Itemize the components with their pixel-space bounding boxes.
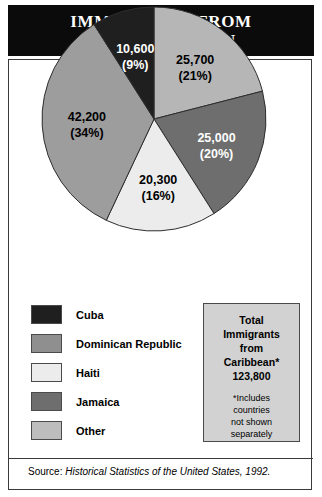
source-label: Source: bbox=[28, 466, 62, 477]
pie-label-value-jamaica: 25,000 bbox=[197, 131, 235, 145]
legend-label-cuba: Cuba bbox=[76, 309, 104, 321]
pie-label-value-cuba: 10,600 bbox=[116, 42, 154, 56]
pie-label-percent-other: (34%) bbox=[70, 126, 103, 140]
pie-label-percent-haiti: (16%) bbox=[142, 189, 175, 203]
legend-label-other: Other bbox=[76, 425, 105, 437]
total-box-line-4: Caribbean* bbox=[224, 355, 279, 369]
legend-item-dominican-republic[interactable]: Dominican Republic bbox=[31, 329, 196, 358]
total-box-line-2: Immigrants bbox=[223, 327, 280, 341]
legend-label-jamaica: Jamaica bbox=[76, 396, 119, 408]
legend-label-dominican-republic: Dominican Republic bbox=[76, 338, 182, 350]
total-box-note-line-1: *Includes bbox=[231, 392, 273, 404]
legend-swatch-jamaica bbox=[31, 392, 62, 411]
total-box-note: *Includes countries not shown separately bbox=[231, 392, 273, 440]
legend-item-jamaica[interactable]: Jamaica bbox=[31, 387, 196, 416]
pie-label-percent-dominican-republic: (21%) bbox=[179, 69, 212, 83]
pie-label-percent-cuba: (9%) bbox=[122, 58, 148, 72]
total-box-note-line-4: separately bbox=[231, 428, 273, 440]
pie-label-value-haiti: 20,300 bbox=[139, 173, 177, 187]
legend-swatch-other bbox=[31, 421, 62, 440]
legend-item-other[interactable]: Other bbox=[31, 416, 196, 445]
legend-swatch-dominican-republic bbox=[31, 334, 62, 353]
pie-label-value-other: 42,200 bbox=[68, 110, 106, 124]
pie-label-percent-jamaica: (20%) bbox=[200, 147, 233, 161]
total-box-note-line-3: not shown bbox=[231, 416, 273, 428]
legend-item-haiti[interactable]: Haiti bbox=[31, 358, 196, 387]
total-box-value: 123,800 bbox=[233, 369, 271, 383]
legend-label-haiti: Haiti bbox=[76, 367, 100, 379]
total-box-note-line-2: countries bbox=[231, 404, 273, 416]
total-box-line-3: from bbox=[240, 341, 263, 355]
legend-swatch-haiti bbox=[31, 363, 62, 382]
chart-page: IMMIGRANTS FROM THE CARIBBEAN 25,700(21%… bbox=[0, 0, 322, 497]
pie-chart-area: 25,700(21%)25,000(20%)20,300(16%)42,200(… bbox=[0, 0, 322, 240]
total-immigrants-box: Total Immigrants from Caribbean* 123,800… bbox=[203, 303, 300, 442]
total-box-line-1: Total bbox=[239, 313, 263, 327]
source-citation: Historical Statistics of the United Stat… bbox=[65, 466, 270, 477]
source-note: Source: Historical Statistics of the Uni… bbox=[28, 466, 270, 477]
legend-item-cuba[interactable]: Cuba bbox=[31, 300, 196, 329]
pie-chart-svg: 25,700(21%)25,000(20%)20,300(16%)42,200(… bbox=[36, 6, 272, 232]
pie-label-value-dominican-republic: 25,700 bbox=[176, 53, 214, 67]
legend-swatch-cuba bbox=[31, 305, 62, 324]
source-divider bbox=[9, 458, 313, 459]
chart-legend: Cuba Dominican Republic Haiti Jamaica Ot… bbox=[31, 300, 196, 445]
